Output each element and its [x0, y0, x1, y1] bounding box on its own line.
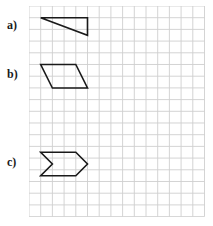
grid-area	[29, 6, 205, 217]
graph-paper-grid	[29, 6, 205, 217]
shape-label-c: c)	[7, 156, 16, 168]
shape-label-a: a)	[7, 19, 17, 31]
shape-label-b: b)	[7, 68, 18, 80]
worksheet-page: a) b) c)	[0, 0, 213, 226]
